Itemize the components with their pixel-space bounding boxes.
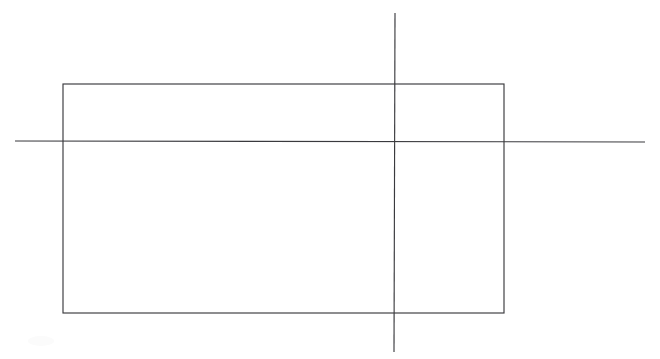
- horizontal-line-shape: [15, 141, 645, 142]
- line-art-drawing: [0, 0, 660, 359]
- vertical-line-shape: [394, 13, 395, 352]
- rectangle-shape: [63, 84, 504, 313]
- figure-canvas: [0, 0, 660, 359]
